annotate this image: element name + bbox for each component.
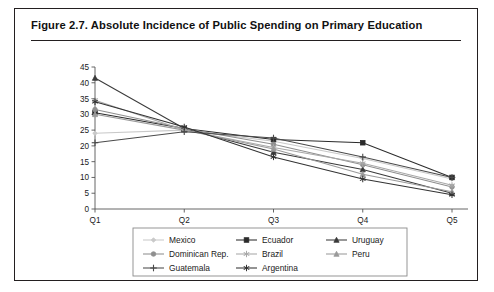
y-axis: 051015202530354045	[80, 63, 95, 214]
x-tick-label: Q5	[447, 216, 458, 225]
legend-label: Dominican Rep.	[169, 249, 229, 259]
data-point-marker	[92, 75, 97, 80]
legend-label: Peru	[352, 249, 370, 259]
title-divider	[31, 40, 461, 41]
x-axis: Q1Q2Q3Q4Q5	[90, 209, 468, 225]
y-tick-label: 40	[80, 79, 90, 88]
y-tick-label: 45	[80, 63, 90, 72]
legend-label: Argentina	[262, 263, 298, 273]
data-series-group	[92, 75, 456, 198]
x-tick-label: Q2	[179, 216, 190, 225]
line-chart: 051015202530354045 Q1Q2Q3Q4Q5 MexicoEcua…	[15, 42, 477, 280]
x-tick-label: Q4	[357, 216, 368, 225]
figure-frame: Figure 2.7. Absolute Incidence of Public…	[14, 8, 478, 281]
x-tick-label: Q1	[90, 216, 101, 225]
x-tick-label: Q3	[268, 216, 279, 225]
y-tick-label: 20	[80, 142, 90, 151]
y-tick-label: 25	[80, 126, 90, 135]
legend-label: Guatemala	[169, 263, 210, 273]
legend-label: Uruguay	[352, 235, 384, 245]
y-tick-label: 5	[84, 189, 89, 198]
y-tick-label: 30	[80, 110, 90, 119]
legend-label: Ecuador	[262, 235, 293, 245]
data-point-marker	[360, 140, 365, 145]
y-tick-label: 10	[80, 173, 90, 182]
chart-plot-area: 051015202530354045 Q1Q2Q3Q4Q5 MexicoEcua…	[15, 42, 477, 280]
y-tick-label: 0	[84, 205, 89, 214]
data-point-marker	[93, 131, 98, 136]
data-point-marker	[92, 139, 99, 146]
figure-title: Figure 2.7. Absolute Incidence of Public…	[31, 19, 463, 31]
legend-label: Mexico	[169, 235, 196, 245]
y-tick-label: 15	[80, 158, 90, 167]
data-point-marker	[244, 238, 249, 243]
legend-label: Brazil	[262, 249, 283, 259]
chart-legend: MexicoEcuadorUruguayDominican Rep.Brazil…	[133, 228, 407, 276]
y-tick-label: 35	[80, 95, 90, 104]
data-point-marker	[151, 252, 156, 257]
